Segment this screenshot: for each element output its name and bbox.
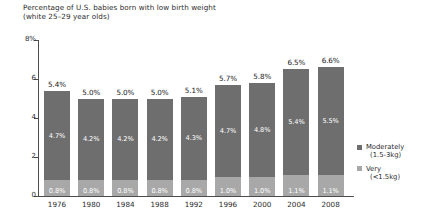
- chart-title: Percentage of U.S. babies born with low …: [23, 3, 353, 22]
- bar-segment-label-very: 1.0%: [249, 187, 275, 195]
- bar-segment-label-very: 1.0%: [215, 187, 241, 195]
- y-axis-tick-label: 2: [32, 152, 36, 160]
- x-axis-tick-label: 2000: [243, 200, 281, 209]
- bar-segment-label-moderately: 4.7%: [44, 132, 70, 140]
- legend-label: Moderately: [366, 143, 404, 151]
- bar-segment-label-moderately: 4.8%: [249, 126, 275, 134]
- bar-stack[interactable]: 4.8%1.0%: [249, 83, 275, 196]
- bar-segment-label-moderately: 5.5%: [318, 117, 344, 125]
- legend-swatch: [357, 145, 362, 150]
- bar-total-label: 5.8%: [243, 72, 281, 81]
- x-axis-tick-label: 1976: [38, 200, 76, 209]
- bar-group[interactable]: 5.4%1.1%6.5%2004: [283, 40, 309, 196]
- bar-group[interactable]: 4.8%1.0%5.8%2000: [249, 40, 275, 196]
- bar-total-label: 5.4%: [38, 80, 76, 89]
- bar-segment-moderately[interactable]: 4.8%: [249, 83, 275, 177]
- bar-segment-moderately[interactable]: 5.5%: [318, 67, 344, 174]
- bar-stack[interactable]: 4.3%0.8%: [181, 97, 207, 196]
- bar-stack[interactable]: 4.2%0.8%: [147, 99, 173, 197]
- bar-segment-label-moderately: 4.3%: [181, 134, 207, 142]
- bar-stack[interactable]: 4.7%1.0%: [215, 85, 241, 196]
- bar-stack[interactable]: 5.5%1.1%: [318, 67, 344, 196]
- bar-segment-label-moderately: 5.4%: [283, 118, 309, 126]
- chart-legend: Moderately(1.5-3kg)Very(<1.5kg): [357, 143, 427, 187]
- bar-segment-moderately[interactable]: 4.3%: [181, 97, 207, 181]
- bar-segment-very[interactable]: 0.8%: [78, 180, 104, 196]
- bar-segment-label-moderately: 4.2%: [78, 135, 104, 143]
- x-axis-tick-label: 1996: [209, 200, 247, 209]
- legend-item[interactable]: Very(<1.5kg): [357, 165, 427, 182]
- bar-group[interactable]: 5.5%1.1%6.6%2008: [318, 40, 344, 196]
- plot-area: 02468% 4.7%0.8%5.4%19764.2%0.8%5.0%19804…: [38, 40, 350, 196]
- bar-segment-very[interactable]: 1.0%: [215, 177, 241, 197]
- bar-group[interactable]: 4.2%0.8%5.0%1988: [147, 40, 173, 196]
- y-axis-tick-label: 0: [32, 191, 36, 199]
- bar-total-label: 6.5%: [277, 58, 315, 67]
- bar-segment-very[interactable]: 1.0%: [249, 177, 275, 197]
- bar-segment-moderately[interactable]: 4.2%: [147, 99, 173, 181]
- y-axis-tick-label: 8%: [25, 35, 36, 43]
- x-axis-line: [38, 196, 354, 197]
- bar-total-label: 6.6%: [312, 56, 350, 65]
- bar-segment-moderately[interactable]: 4.7%: [44, 91, 70, 181]
- bar-total-label: 5.0%: [141, 88, 179, 97]
- legend-sublabel: (<1.5kg): [366, 173, 427, 181]
- bar-segment-very[interactable]: 0.8%: [44, 180, 70, 196]
- bar-segment-moderately[interactable]: 4.7%: [215, 85, 241, 177]
- bars-layer: 4.7%0.8%5.4%19764.2%0.8%5.0%19804.2%0.8%…: [38, 40, 350, 196]
- y-axis-tick-label: 6: [32, 74, 36, 82]
- bar-stack[interactable]: 4.2%0.8%: [78, 99, 104, 197]
- bar-segment-label-very: 1.1%: [318, 187, 344, 195]
- x-axis-tick-label: 2004: [277, 200, 315, 209]
- bar-segment-label-very: 0.8%: [78, 187, 104, 195]
- legend-label: Very: [366, 165, 381, 173]
- chart-figure: Percentage of U.S. babies born with low …: [0, 0, 429, 217]
- bar-total-label: 5.7%: [209, 74, 247, 83]
- bar-total-label: 5.1%: [175, 86, 213, 95]
- bar-stack[interactable]: 4.7%0.8%: [44, 91, 70, 196]
- bar-segment-very[interactable]: 1.1%: [283, 175, 309, 196]
- bar-segment-very[interactable]: 0.8%: [181, 180, 207, 196]
- x-axis-tick-label: 1992: [175, 200, 213, 209]
- legend-item[interactable]: Moderately(1.5-3kg): [357, 143, 427, 160]
- bar-segment-label-moderately: 4.7%: [215, 127, 241, 135]
- bar-total-label: 5.0%: [106, 88, 144, 97]
- bar-group[interactable]: 4.7%1.0%5.7%1996: [215, 40, 241, 196]
- bar-segment-label-very: 0.8%: [147, 187, 173, 195]
- bar-segment-label-very: 0.8%: [112, 187, 138, 195]
- bar-segment-moderately[interactable]: 4.2%: [78, 99, 104, 181]
- bar-segment-very[interactable]: 1.1%: [318, 175, 344, 196]
- bar-stack[interactable]: 5.4%1.1%: [283, 69, 309, 196]
- x-axis-tick-label: 1980: [72, 200, 110, 209]
- bar-segment-label-very: 0.8%: [181, 187, 207, 195]
- x-axis-tick-label: 1988: [141, 200, 179, 209]
- bar-segment-moderately[interactable]: 5.4%: [283, 69, 309, 174]
- bar-segment-label-very: 0.8%: [44, 187, 70, 195]
- bar-group[interactable]: 4.7%0.8%5.4%1976: [44, 40, 70, 196]
- bar-group[interactable]: 4.2%0.8%5.0%1980: [78, 40, 104, 196]
- x-axis-tick-label: 2008: [312, 200, 350, 209]
- bar-group[interactable]: 4.2%0.8%5.0%1984: [112, 40, 138, 196]
- legend-sublabel: (1.5-3kg): [366, 151, 427, 159]
- bar-segment-very[interactable]: 0.8%: [147, 180, 173, 196]
- bar-total-label: 5.0%: [72, 88, 110, 97]
- bar-segment-label-very: 1.1%: [283, 187, 309, 195]
- bar-segment-label-moderately: 4.2%: [112, 135, 138, 143]
- y-axis-tick-label: 4: [32, 113, 36, 121]
- bar-stack[interactable]: 4.2%0.8%: [112, 99, 138, 197]
- bar-group[interactable]: 4.3%0.8%5.1%1992: [181, 40, 207, 196]
- bar-segment-moderately[interactable]: 4.2%: [112, 99, 138, 181]
- x-axis-tick-label: 1984: [106, 200, 144, 209]
- legend-swatch: [357, 166, 362, 171]
- bar-segment-very[interactable]: 0.8%: [112, 180, 138, 196]
- bar-segment-label-moderately: 4.2%: [147, 135, 173, 143]
